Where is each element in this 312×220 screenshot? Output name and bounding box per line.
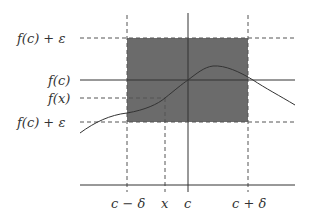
diagram-canvas: f(c) + ε f(c) f(x) f(c) + ε c − δ x c c … <box>0 0 312 220</box>
label-f-c-plus-epsilon-top: f(c) + ε <box>16 31 65 46</box>
label-c-plus-delta: c + δ <box>232 196 266 211</box>
label-c-minus-delta: c − δ <box>111 196 145 211</box>
label-f-c-plus-epsilon-bottom: f(c) + ε <box>16 115 65 130</box>
label-c: c <box>184 196 192 211</box>
label-f-x: f(x) <box>47 91 70 106</box>
label-x: x <box>161 196 169 211</box>
continuity-diagram: f(c) + ε f(c) f(x) f(c) + ε c − δ x c c … <box>0 0 312 220</box>
label-f-c: f(c) <box>47 73 70 88</box>
